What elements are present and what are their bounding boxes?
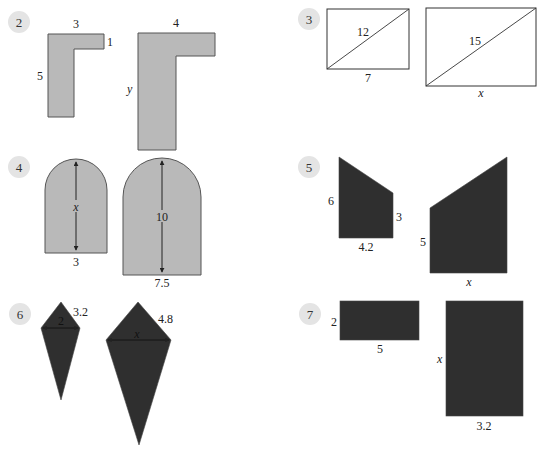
- large-rectangle: [446, 301, 523, 416]
- problem-6: 6 2 3.2 x 4.8: [9, 302, 173, 445]
- large-bottom-label: 3.2: [477, 419, 492, 433]
- problem-number: 7: [307, 307, 314, 322]
- large-left-label: x: [436, 352, 443, 366]
- large-l-shape: [138, 33, 215, 150]
- large-side-label: 4.8: [158, 312, 173, 326]
- problem-number: 6: [17, 307, 24, 322]
- large-width-label: x: [133, 327, 140, 341]
- small-l-shape: [48, 34, 104, 117]
- large-bottom-label: x: [477, 86, 484, 100]
- small-step-label: 1: [107, 35, 113, 49]
- large-diagonal-label: 15: [469, 34, 481, 48]
- small-trapezoid: [339, 157, 393, 238]
- small-diagonal-label: 12: [357, 25, 369, 39]
- large-top-label: 4: [173, 16, 179, 30]
- large-bottom-label: x: [465, 275, 472, 289]
- large-trapezoid: [430, 157, 507, 273]
- small-bottom-label: 7: [365, 71, 371, 85]
- large-left-label: 5: [420, 235, 426, 249]
- small-bottom-label: 5: [377, 342, 383, 356]
- problem-5: 5 6 3 4.2 5 x: [298, 156, 507, 289]
- small-side-label: 3.2: [73, 305, 88, 319]
- small-right-label: 3: [396, 210, 402, 224]
- large-bottom-label: 7.5: [155, 276, 170, 290]
- small-width-label: 2: [58, 314, 64, 328]
- problem-number: 2: [16, 15, 23, 30]
- problem-4: 4 x 3 10 7.5: [8, 156, 201, 290]
- problem-number: 3: [306, 12, 313, 27]
- large-height-label: 10: [156, 210, 168, 224]
- large-left-label: y: [126, 82, 133, 96]
- small-rectangle: [340, 301, 419, 340]
- small-top-label: 3: [73, 17, 79, 31]
- small-left-label: 6: [328, 194, 334, 208]
- small-left-label: 5: [37, 69, 43, 83]
- small-bottom-label: 4.2: [359, 240, 374, 254]
- small-height-label: x: [72, 200, 79, 214]
- figure-sheet: 2 3 1 5 4 y 3 12 7 15 x 4 x 3 10 7.5: [0, 0, 543, 449]
- problem-7: 7 2 5 x 3.2: [299, 301, 523, 433]
- problem-number: 5: [306, 160, 313, 175]
- small-left-label: 2: [331, 315, 337, 329]
- problem-2: 2 3 1 5 4 y: [8, 11, 215, 150]
- problem-3: 3 12 7 15 x: [298, 8, 536, 100]
- small-bottom-label: 3: [73, 255, 79, 269]
- problem-number: 4: [16, 160, 23, 175]
